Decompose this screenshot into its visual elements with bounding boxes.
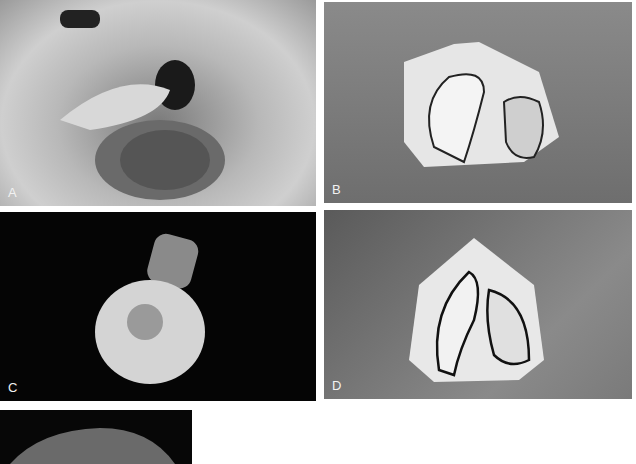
panel-label-c: C (8, 380, 17, 395)
panel-label-a: A (8, 185, 17, 200)
photo-e (0, 410, 192, 464)
figure-panel-b: B (324, 2, 632, 203)
figure-panel-a: A (0, 0, 316, 206)
figure-panel-d: D (324, 210, 632, 399)
photo-d (324, 210, 632, 399)
figure-panel-c: C (0, 212, 316, 401)
panel-label-b: B (332, 182, 341, 197)
photo-c (0, 212, 316, 401)
photo-b (324, 2, 632, 203)
panel-label-d: D (332, 378, 341, 393)
photo-a (0, 0, 316, 206)
figure-panel-e (0, 410, 192, 464)
